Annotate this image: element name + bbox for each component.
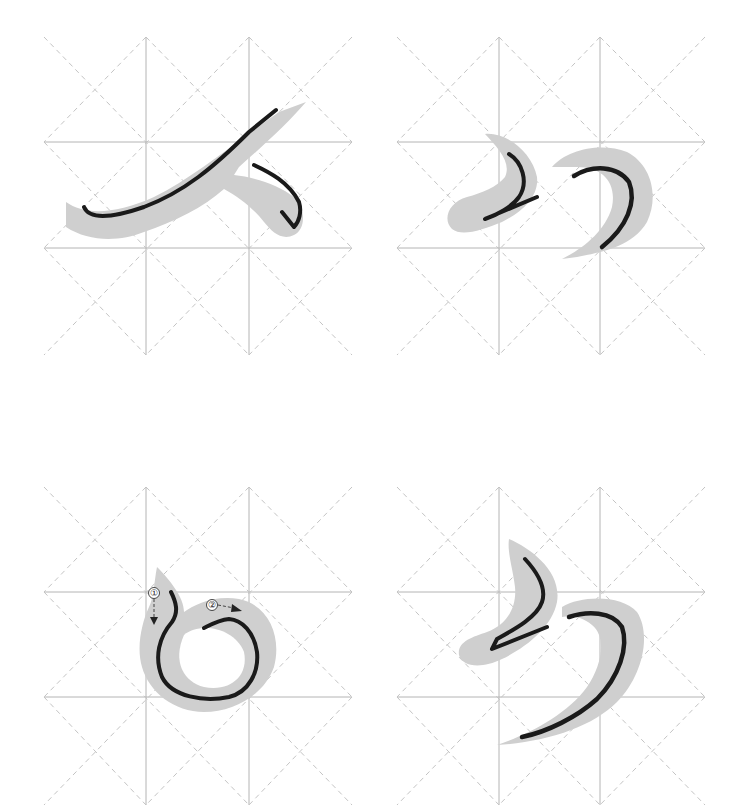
practice-panel-3: の ①	[44, 487, 352, 758]
stroke-order-label-1: ①	[150, 588, 158, 598]
brush-shadow	[447, 134, 652, 259]
calligraphy-grid-2	[397, 37, 705, 355]
guide-grid	[397, 37, 705, 355]
guide-grid	[397, 487, 705, 805]
calligraphy-grid-4	[397, 487, 705, 805]
stroke-order-label-2: ②	[208, 600, 216, 610]
practice-panel-4: ろ	[397, 487, 705, 758]
calligraphy-grid-1	[44, 37, 352, 355]
brush-shadow	[66, 102, 306, 239]
practice-panel-2: か	[397, 37, 705, 355]
calligraphy-grid-3: ① ②	[44, 487, 352, 805]
practice-panel-1: へ	[44, 37, 352, 355]
